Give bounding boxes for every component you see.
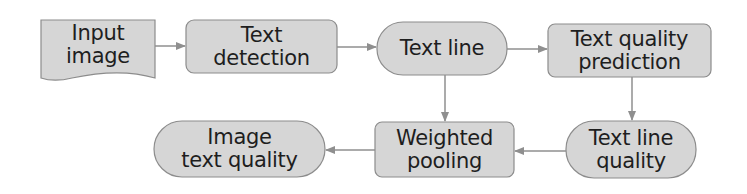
- label-line: Text: [241, 24, 282, 47]
- label-line: Text line: [400, 37, 484, 60]
- text-quality-prediction-label: Text quality prediction: [548, 24, 711, 77]
- text-line-label: Text line: [377, 22, 507, 75]
- label-line: Input: [72, 22, 125, 45]
- label-line: Text line: [589, 127, 673, 150]
- image-text-quality-label: Image text quality: [154, 121, 325, 177]
- label-line: quality: [596, 150, 666, 173]
- label-line: image: [66, 45, 130, 68]
- label-line: text quality: [181, 149, 297, 172]
- label-line: Image: [207, 126, 271, 149]
- label-line: Weighted: [396, 127, 493, 150]
- label-line: Text quality: [571, 28, 688, 51]
- label-line: prediction: [578, 51, 680, 74]
- label-line: pooling: [407, 150, 482, 173]
- text-line-quality-label: Text line quality: [566, 121, 696, 178]
- input-image-label: Input image: [41, 18, 155, 72]
- text-detection-label: Text detection: [186, 20, 337, 73]
- weighted-pooling-label: Weighted pooling: [375, 122, 514, 177]
- label-line: detection: [213, 47, 309, 70]
